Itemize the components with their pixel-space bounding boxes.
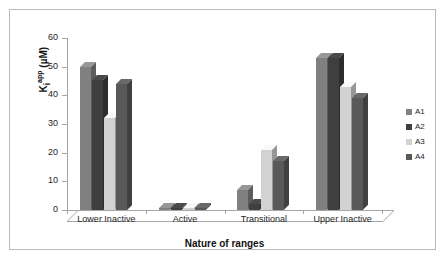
bar-a3-upper-inactive [340,87,351,210]
legend-label: A2 [415,123,425,131]
bar-top-face [237,185,248,190]
bar-top-face [340,82,351,87]
legend-label: A1 [415,108,425,116]
bar-side-face [206,203,211,210]
chart-screenshot: Kiapp (µM) 6050403020100 Lower InactiveA… [0,0,448,262]
bar-top-face [328,53,339,58]
bar-a4-lower-inactive [116,84,127,210]
legend-item-a3[interactable]: A3 [406,134,444,149]
bar-a3-active [183,208,194,210]
legend-swatch-a1 [406,109,412,115]
bar-front-face [261,150,272,210]
bar-top-face [352,93,363,98]
bar-a1-transitional [237,190,248,210]
legend-swatch-a2 [406,124,412,130]
bar-a2-transitional [249,204,260,210]
bar-top-face [92,75,103,80]
bar-front-face [104,118,115,210]
bar-top-face [159,203,170,208]
bar-front-face [80,67,91,210]
y-axis-tick-label: 10 [36,176,58,185]
x-axis-tick-mark [382,210,383,214]
bar-a4-transitional [273,161,284,210]
legend-item-a2[interactable]: A2 [406,119,444,134]
x-axis-tick-mark [146,210,147,214]
bar-front-face [171,208,182,210]
bar-front-face [273,161,284,210]
legend-item-a4[interactable]: A4 [406,149,444,164]
bar-front-face [316,58,327,210]
bar-top-face [171,203,182,208]
bar-a2-active [171,208,182,210]
bar-front-face [183,208,194,210]
bar-a2-upper-inactive [328,58,339,210]
y-axis-tick-label: 0 [36,205,58,214]
bar-top-face [261,145,272,150]
legend-swatch-a3 [406,139,412,145]
x-axis-category-label: Upper Inactive [303,215,382,225]
y-axis-tick-label: 60 [36,33,58,42]
plot-area [67,38,382,210]
legend-swatch-a4 [406,154,412,160]
legend-item-a1[interactable]: A1 [406,104,444,119]
bar-a3-lower-inactive [104,118,115,210]
y-axis-title-superscript: app [36,70,43,82]
x-axis-category-label: Lower Inactive [67,215,146,225]
bar-a1-upper-inactive [316,58,327,210]
y-axis-tick-label: 50 [36,62,58,71]
bar-front-face [195,208,206,210]
bar-a4-active [195,208,206,210]
bar-front-face [328,58,339,210]
bar-side-face [284,156,289,210]
x-axis-tick-mark [303,210,304,214]
bar-front-face [237,190,248,210]
legend-label: A4 [415,153,425,161]
y-axis-tick-label: 40 [36,90,58,99]
bar-front-face [340,87,351,210]
x-axis-category-label: Active [146,215,225,225]
bar-top-face [195,203,206,208]
bar-front-face [159,208,170,210]
bar-top-face [316,53,327,58]
x-axis-title: Nature of ranges [67,238,382,249]
bar-side-face [363,93,368,210]
y-axis-tick-label: 30 [36,119,58,128]
chart-legend: A1A2A3A4 [406,104,444,164]
bar-side-face [127,79,132,210]
bar-top-face [273,156,284,161]
x-axis-tick-mark [225,210,226,214]
bar-top-face [116,79,127,84]
legend-label: A3 [415,138,425,146]
bar-a4-upper-inactive [352,98,363,210]
y-axis-title-subscript: i [42,83,52,85]
bar-a3-transitional [261,150,272,210]
x-axis-tick-mark [67,210,68,214]
bar-a2-lower-inactive [92,80,103,210]
bar-a1-active [159,208,170,210]
bar-top-face [183,203,194,208]
bar-a1-lower-inactive [80,67,91,210]
bar-front-face [92,80,103,210]
bar-front-face [249,204,260,210]
bar-front-face [352,98,363,210]
bar-top-face [249,199,260,204]
y-axis-tick-label: 20 [36,148,58,157]
bar-top-face [80,62,91,67]
bar-top-face [104,113,115,118]
chart-frame: Kiapp (µM) 6050403020100 Lower InactiveA… [9,9,436,250]
bar-front-face [116,84,127,210]
x-axis-category-label: Transitional [225,215,304,225]
